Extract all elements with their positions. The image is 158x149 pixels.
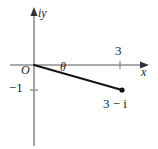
imaginary-axis-arrowhead	[30, 7, 37, 16]
origin-label: O	[21, 64, 30, 76]
y-tick-label-neg1: −1	[9, 81, 23, 94]
angle-theta-label: θ	[60, 61, 66, 73]
imaginary-axis-label: iy	[38, 7, 47, 19]
argand-diagram-figure: iy x O 3 −1 θ 3 − i	[0, 0, 158, 149]
point-label-3-minus-i: 3 − i	[103, 97, 127, 110]
x-tick-label-3: 3	[115, 44, 122, 57]
data-point-marker	[119, 87, 124, 92]
real-axis-label: x	[141, 66, 146, 78]
vector-to-point	[34, 65, 122, 90]
